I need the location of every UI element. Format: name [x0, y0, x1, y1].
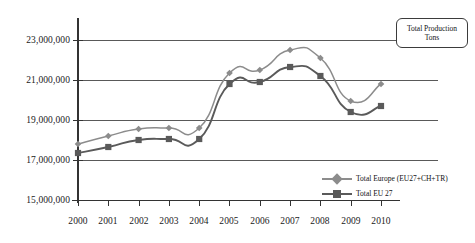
chart-legend: Total Europe (EU27+CH+TR) Total EU 27 [322, 171, 472, 201]
data-point-square [136, 137, 142, 143]
data-point-square [287, 64, 293, 70]
data-point-square [378, 103, 384, 109]
chart-title-line-2: Tons [425, 33, 439, 42]
legend-label-total-europe: Total Europe (EU27+CH+TR) [356, 174, 448, 183]
data-point-square [75, 150, 81, 156]
chart-title-text: Total Production Tons [405, 24, 459, 42]
data-point-diamond [75, 141, 82, 148]
data-point-diamond [347, 98, 354, 105]
data-point-diamond [287, 47, 294, 54]
series-total-eu27 [75, 64, 384, 156]
legend-label-total-eu27: Total EU 27 [356, 189, 393, 198]
data-point-square [257, 79, 263, 85]
data-point-diamond [105, 133, 112, 140]
data-point-square [348, 109, 354, 115]
data-point-square [196, 136, 202, 142]
data-point-diamond [135, 126, 142, 133]
production-line-chart: 23,000,000 21,000,000 19,000,000 17,000,… [0, 0, 475, 243]
data-point-diamond [257, 67, 264, 74]
legend-marker-square-icon [333, 190, 341, 198]
series-line [78, 66, 381, 153]
series-layer [75, 47, 385, 156]
data-point-diamond [166, 125, 173, 132]
legend-key-square-icon [322, 188, 352, 200]
legend-item-total-europe[interactable]: Total Europe (EU27+CH+TR) [322, 171, 472, 186]
data-point-square [317, 73, 323, 79]
gridlines [78, 40, 438, 160]
chart-title-line-1: Total Production [407, 24, 457, 33]
data-point-square [105, 144, 111, 150]
data-point-square [226, 81, 232, 87]
data-point-square [166, 136, 172, 142]
legend-item-total-eu27[interactable]: Total EU 27 [322, 186, 472, 201]
chart-title-box: Total Production Tons [396, 18, 468, 48]
legend-marker-diamond-icon [331, 173, 342, 184]
series-total-europe [75, 47, 385, 148]
legend-key-diamond-icon [322, 173, 352, 185]
